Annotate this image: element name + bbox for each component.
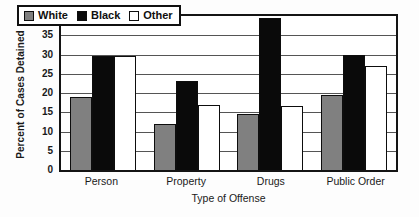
bar-black-property (176, 81, 198, 170)
legend-item-other: Other (129, 10, 172, 21)
bar-black-person (92, 56, 114, 170)
bar-white-person (70, 97, 92, 170)
x-axis-category-label: Drugs (229, 175, 314, 187)
x-axis-category-label: Public Order (313, 175, 398, 187)
legend-item-white: White (24, 10, 68, 21)
legend-swatch-other-icon (129, 11, 139, 21)
y-axis-tick-label: 25 (42, 69, 53, 79)
bar-other-drugs (281, 106, 303, 170)
legend-label: White (38, 10, 68, 21)
x-axis-title: Type of Offense (59, 192, 398, 204)
x-axis-category-label: Person (59, 175, 144, 187)
y-axis-tick-label: 20 (42, 88, 53, 98)
y-axis-tick-label: 30 (42, 50, 53, 60)
bar-other-public-order (365, 66, 387, 170)
y-axis-tick-label: 10 (42, 127, 53, 137)
y-axis-tick-label: 0 (47, 165, 53, 175)
bar-group (229, 16, 313, 170)
bar-other-property (198, 105, 220, 170)
chart-legend: WhiteBlackOther (17, 5, 181, 26)
bar-white-property (154, 124, 176, 170)
x-axis-category-labels: PersonPropertyDrugsPublic Order (59, 175, 398, 187)
bar-white-drugs (237, 114, 259, 170)
bar-chart-figure: Percent of Cases Detained 05101520253035… (0, 0, 419, 217)
x-axis-category-label: Property (144, 175, 229, 187)
legend-item-black: Black (77, 10, 120, 21)
legend-label: Other (143, 10, 172, 21)
bar-group (61, 16, 145, 170)
bar-group (145, 16, 229, 170)
y-axis-title-text: Percent of Cases Detained (15, 30, 26, 159)
bar-other-person (114, 56, 136, 170)
y-axis-tick-labels: 0510152025303540 (30, 14, 53, 172)
legend-label: Black (91, 10, 120, 21)
plot-area (59, 14, 398, 172)
legend-swatch-black-icon (77, 11, 87, 21)
y-axis-tick-label: 5 (47, 146, 53, 156)
legend-swatch-white-icon (24, 11, 34, 21)
bar-group (312, 16, 396, 170)
bar-groups (61, 16, 396, 170)
y-axis-title: Percent of Cases Detained (10, 14, 30, 174)
y-axis-tick-label: 15 (42, 107, 53, 117)
bar-white-public-order (321, 95, 343, 170)
bar-black-public-order (343, 55, 365, 171)
bar-black-drugs (259, 18, 281, 170)
y-axis-tick-label: 35 (42, 30, 53, 40)
